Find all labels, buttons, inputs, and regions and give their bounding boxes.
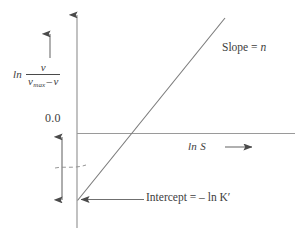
y-axis-zero-tick-label: 0.0: [45, 112, 61, 124]
slope-annotation-symbol: n: [260, 41, 266, 53]
slope-annotation: Slope = n: [222, 42, 266, 54]
y-axis-label-ln: ln: [13, 69, 22, 80]
y-axis-denominator: vmax–v: [26, 75, 60, 87]
y-axis-denominator-vmax-v: v: [28, 76, 33, 87]
x-axis-label: ln S: [188, 141, 206, 152]
hill-plot-figure: ln v vmax–v 0.0 Slope = n ln S Intercept…: [0, 0, 306, 236]
y-axis-numerator: v: [36, 62, 51, 74]
y-axis-denominator-subscript: max: [33, 82, 45, 89]
y-axis-label: ln v vmax–v: [13, 62, 60, 87]
hill-regression-line: [78, 18, 226, 201]
y-axis-denominator-minus: –: [47, 76, 53, 87]
intercept-annotation: Intercept = – ln K′: [146, 192, 230, 204]
y-axis-label-fraction: v vmax–v: [26, 62, 60, 87]
slope-annotation-text: Slope =: [222, 41, 260, 53]
dashed-guide-line: [55, 165, 86, 168]
y-axis-denominator-v: v: [54, 76, 59, 87]
